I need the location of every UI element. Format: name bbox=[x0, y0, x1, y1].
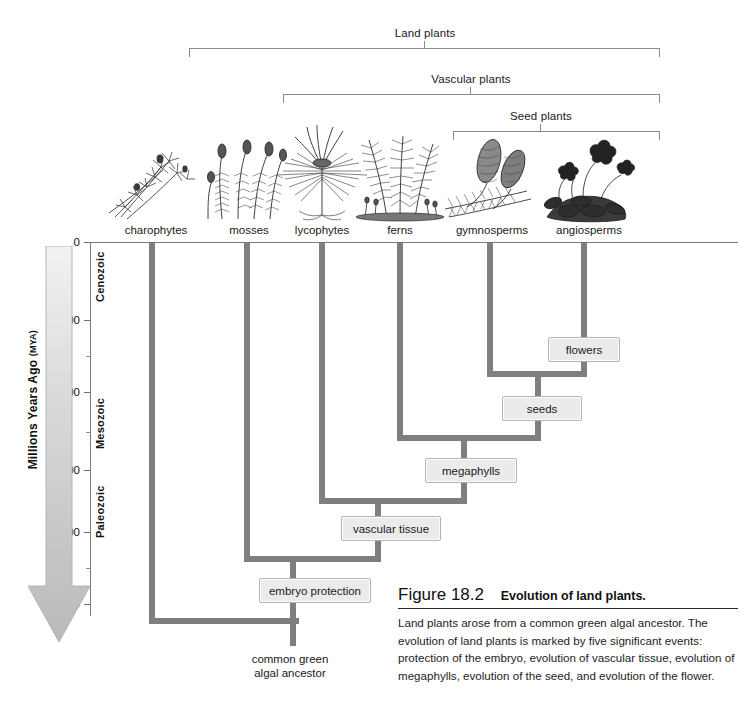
branch-gymnosperms bbox=[487, 243, 493, 373]
caption-divider bbox=[398, 608, 738, 609]
branch-megaphylls-horizontal bbox=[397, 435, 541, 441]
mosses-illustration bbox=[192, 133, 302, 223]
caption-figure-name: Evolution of land plants. bbox=[501, 589, 646, 603]
taxon-label-mosses: mosses bbox=[229, 224, 269, 236]
bracket-label-land-plants: Land plants bbox=[395, 27, 456, 39]
bracket-stem-vascular-plants bbox=[470, 87, 471, 94]
taxon-label-ferns: ferns bbox=[387, 224, 413, 236]
branch-vascular-tissue-horizontal bbox=[319, 498, 467, 504]
taxon-label-angiosperms: angiosperms bbox=[556, 224, 622, 236]
era-label-cenozoic: Cenozoic bbox=[94, 206, 106, 302]
caption-figure-number: Figure 18.2 bbox=[398, 585, 484, 604]
figure-18-2: Land plants Vascular plants Seed plants bbox=[0, 0, 753, 707]
branch-embryo-protection-horizontal bbox=[244, 556, 381, 562]
gymnosperms-illustration bbox=[431, 131, 549, 223]
bracket-label-seed-plants: Seed plants bbox=[510, 110, 572, 122]
branch-root-horizontal bbox=[149, 618, 299, 624]
root-label: common green algal ancestor bbox=[252, 652, 329, 680]
figure-caption: Figure 18.2 Evolution of land plants. La… bbox=[398, 585, 738, 684]
bracket-stem-seed-plants bbox=[540, 124, 541, 131]
bracket-vascular-plants bbox=[283, 94, 660, 103]
ferns-illustration bbox=[345, 128, 455, 223]
bracket-land-plants bbox=[189, 48, 660, 57]
caption-body: Land plants arose from a common green al… bbox=[398, 614, 738, 684]
axis-top-line bbox=[90, 242, 738, 243]
taxon-label-lycophytes: lycophytes bbox=[295, 224, 349, 236]
branch-lycophytes bbox=[319, 243, 325, 500]
event-box-megaphylls[interactable]: megaphylls bbox=[425, 458, 517, 483]
event-box-vascular-tissue[interactable]: vascular tissue bbox=[341, 516, 441, 541]
taxon-label-gymnosperms: gymnosperms bbox=[456, 224, 528, 236]
branch-mosses bbox=[244, 243, 250, 558]
caption-title: Figure 18.2 Evolution of land plants. bbox=[398, 585, 738, 605]
era-label-mesozoic: Mesozoic bbox=[94, 359, 106, 449]
event-box-flowers[interactable]: flowers bbox=[548, 337, 620, 362]
event-box-seeds[interactable]: seeds bbox=[502, 396, 582, 421]
lycophytes-illustration bbox=[267, 123, 377, 223]
branch-seeds-horizontal bbox=[487, 371, 587, 377]
bracket-seed-plants bbox=[453, 131, 660, 140]
time-direction-arrow bbox=[24, 246, 94, 646]
root-label-line1: common green bbox=[252, 652, 329, 666]
event-box-embryo-protection[interactable]: embryo protection bbox=[259, 578, 371, 603]
angiosperms-illustration bbox=[531, 133, 643, 223]
branch-root-stem bbox=[290, 618, 296, 646]
branch-ferns bbox=[397, 243, 403, 437]
axis-tick-0 bbox=[84, 242, 90, 243]
taxon-label-charophytes: charophytes bbox=[125, 224, 188, 236]
bracket-stem-land-plants bbox=[424, 41, 425, 48]
bracket-label-vascular-plants: Vascular plants bbox=[431, 73, 510, 85]
root-label-line2: algal ancestor bbox=[252, 666, 329, 680]
era-label-paleozoic: Paleozoic bbox=[94, 442, 106, 538]
branch-charophytes bbox=[149, 243, 155, 624]
charophytes-illustration bbox=[97, 143, 207, 223]
